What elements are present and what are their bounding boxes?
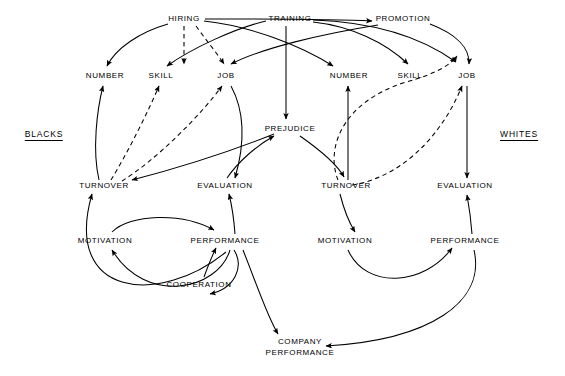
node-motivation-blacks: MOTIVATION xyxy=(78,236,133,246)
edge-performance-w-evaluation-w xyxy=(467,195,472,234)
node-performance-whites: PERFORMANCE xyxy=(431,236,500,246)
node-hiring: HIRING xyxy=(168,14,200,24)
node-job-whites: JOB xyxy=(458,71,475,81)
edge-hiring-number-w xyxy=(204,21,333,66)
company-performance-line2: PERFORMANCE xyxy=(266,347,335,358)
node-promotion: PROMOTION xyxy=(376,14,431,24)
edge-motivation-w-performance-w xyxy=(348,248,452,278)
node-job-blacks: JOB xyxy=(217,71,234,81)
edge-training-skill-b xyxy=(167,21,266,66)
edge-performance-w-company-performance xyxy=(326,250,476,346)
node-performance-blacks: PERFORMANCE xyxy=(191,236,260,246)
node-number-blacks: NUMBER xyxy=(86,71,124,81)
edge-motivation-b-performance-b xyxy=(112,217,214,232)
edge-evaluation-b-prejudice xyxy=(227,136,274,178)
node-evaluation-blacks: EVALUATION xyxy=(197,181,253,191)
node-turnover-whites: TURNOVER xyxy=(321,181,371,191)
group-label-blacks: BLACKS xyxy=(25,129,63,141)
node-motivation-whites: MOTIVATION xyxy=(318,236,373,246)
edge-hiring-number-b xyxy=(107,24,168,66)
edge-performance-b-evaluation-b xyxy=(229,194,235,234)
edge-prejudice-turnover-b xyxy=(132,134,274,180)
edge-job-b-evaluation-b xyxy=(231,86,242,178)
node-evaluation-whites: EVALUATION xyxy=(437,181,493,191)
node-training: TRAINING xyxy=(268,14,311,24)
diagram-page: BLACKS WHITES HIRING TRAINING PROMOTION … xyxy=(0,0,565,376)
company-performance-line1: COMPANY xyxy=(266,337,335,348)
edge-turnover-b-job-b xyxy=(122,86,222,181)
node-prejudice: PREJUDICE xyxy=(265,124,316,134)
edge-performance-b-company-performance xyxy=(243,250,278,334)
node-skill-blacks: SKILL xyxy=(149,71,174,81)
node-number-whites: NUMBER xyxy=(330,71,368,81)
edge-turnover-b-skill-b xyxy=(111,86,159,180)
edge-hiring-job-b xyxy=(196,26,224,64)
edge-turnover-w-job-w xyxy=(352,86,462,185)
group-label-whites: WHITES xyxy=(500,129,538,141)
node-turnover-blacks: TURNOVER xyxy=(79,181,129,191)
edge-prejudice-turnover-w xyxy=(300,136,344,177)
node-company-performance: COMPANY PERFORMANCE xyxy=(266,337,335,358)
node-skill-whites: SKILL xyxy=(398,71,423,81)
node-cooperation-blacks: COOPERATION xyxy=(166,280,231,290)
edge-turnover-b-number-b xyxy=(96,86,103,180)
edge-turnover-w-motivation-w xyxy=(340,194,355,232)
